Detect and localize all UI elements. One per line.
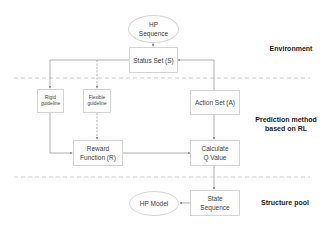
flexible-guideline-node: Flexible guideline bbox=[83, 89, 111, 113]
calculate-q-node: Calculate Q Value bbox=[190, 140, 240, 166]
hp-sequence-line2: Sequence bbox=[139, 29, 168, 38]
state-sequence-node: State Sequence bbox=[190, 190, 240, 216]
action-set-node: Action Set (A) bbox=[190, 90, 240, 115]
prediction-text-line1: Prediction method bbox=[244, 115, 328, 124]
calculate-q-line1: Calculate bbox=[201, 144, 228, 153]
region-label-environment: Environment bbox=[258, 44, 324, 53]
reward-function-node: Reward Function (R) bbox=[73, 140, 123, 166]
hp-sequence-node: HP Sequence bbox=[128, 15, 179, 43]
flexible-guideline-line2: guideline bbox=[87, 101, 106, 108]
region-label-prediction: Prediction method based on RL bbox=[244, 115, 328, 133]
structure-pool-text: Structure pool bbox=[261, 199, 309, 206]
prediction-text-line2: based on RL bbox=[244, 124, 328, 133]
region-label-structure-pool: Structure pool bbox=[252, 198, 318, 207]
status-set-label: Status Set (S) bbox=[133, 56, 173, 65]
calculate-q-line2: Q Value bbox=[201, 153, 228, 162]
hp-model-label: HP Model bbox=[140, 199, 168, 208]
action-set-label: Action Set (A) bbox=[195, 98, 235, 107]
rigid-guideline-node: Rigid guideline bbox=[37, 89, 64, 113]
reward-function-line1: Reward bbox=[80, 144, 116, 153]
environment-text: Environment bbox=[270, 45, 313, 52]
status-set-node: Status Set (S) bbox=[129, 47, 178, 73]
hp-sequence-line1: HP bbox=[139, 20, 168, 29]
reward-function-line2: Function (R) bbox=[80, 153, 116, 162]
state-sequence-line1: State bbox=[200, 194, 229, 203]
hp-model-node: HP Model bbox=[129, 191, 179, 216]
state-sequence-line2: Sequence bbox=[200, 203, 229, 212]
rigid-guideline-line2: guideline bbox=[41, 101, 60, 108]
